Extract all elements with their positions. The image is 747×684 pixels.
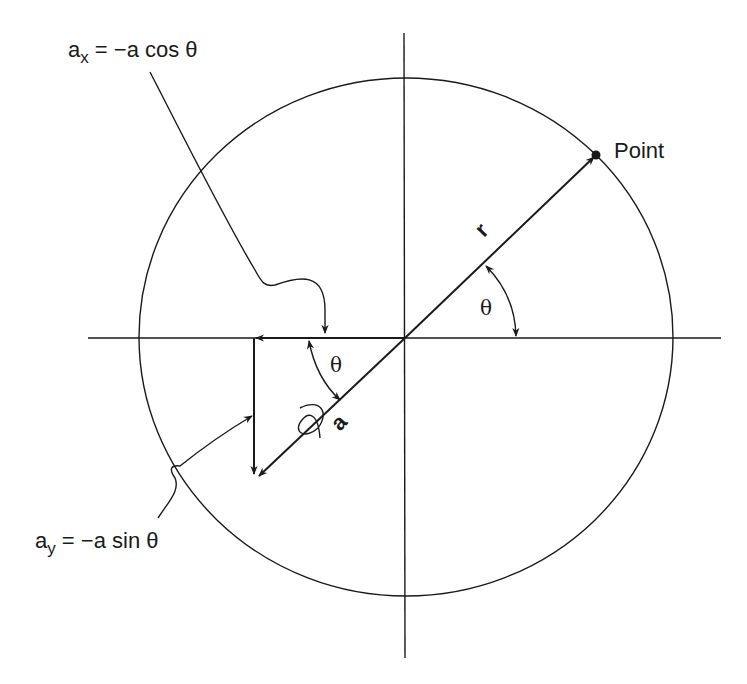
a-vector-label: a	[325, 409, 352, 436]
ay-leader-line	[158, 416, 252, 518]
theta-lower-label: θ	[330, 353, 342, 377]
point-label: Point	[614, 138, 664, 163]
point-dot	[592, 151, 601, 160]
r-vector	[405, 157, 594, 338]
ay-equation-label: ay = −a sin θ	[35, 528, 159, 558]
ax-leader-line	[150, 72, 325, 333]
a-vector-squiggle	[298, 405, 323, 438]
r-vector-label: r	[469, 218, 493, 242]
ax-equation-label: ax = −a cos θ	[68, 37, 198, 67]
y-axis	[404, 33, 405, 658]
diagram-canvas: ax = −a cos θ ay = −a sin θ Point r a θ …	[0, 0, 747, 684]
theta-upper-label: θ	[480, 296, 492, 320]
